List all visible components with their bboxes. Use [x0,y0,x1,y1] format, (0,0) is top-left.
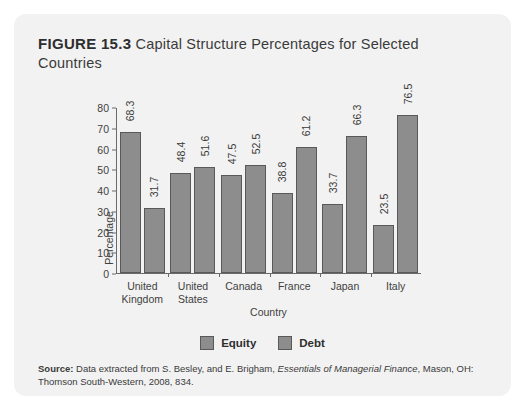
bar-debt[interactable]: 51.6 [194,108,215,273]
bar-debt[interactable]: 52.5 [245,108,266,273]
x-tick-mark [168,273,169,277]
x-tick-label: Italy [386,280,405,293]
bar-rect [322,204,343,274]
x-tick-label: UnitedKingdom [122,280,163,305]
country-group: 33.766.3Japan [322,108,367,273]
y-tick-mark [112,232,116,233]
y-tick-mark [112,170,116,171]
x-tick-label: France [278,280,311,293]
x-axis-line [116,273,421,274]
legend-swatch [200,336,214,350]
x-tick-label: Canada [225,280,262,293]
y-tick-mark [112,191,116,192]
legend-label: Debt [299,337,325,349]
bar-value-label: 61.2 [300,116,312,136]
bar-debt[interactable]: 76.5 [397,108,418,273]
bar-rect [245,165,266,273]
bar-rect [397,115,418,273]
bar-equity[interactable]: 47.5 [221,108,242,273]
y-tick-mark [112,211,116,212]
bars-area: 68.331.7UnitedKingdom48.451.6UnitedState… [117,108,421,273]
bar-rect [296,147,317,273]
bar-value-label: 66.3 [351,105,363,125]
bar-rect [346,136,367,273]
bar-equity[interactable]: 23.5 [373,108,394,273]
bar-rect [272,193,293,273]
y-tick-mark [112,253,116,254]
bar-value-label: 48.4 [175,142,187,162]
plot-area: 80706050403020100 68.331.7UnitedKingdom4… [116,108,421,274]
bar-value-label: 76.5 [402,84,414,104]
figure-card: FIGURE 15.3 Capital Structure Percentage… [14,14,511,396]
legend-entry-equity[interactable]: Equity [200,336,256,350]
y-tick-mark [112,149,116,150]
bar-value-label: 23.5 [378,193,390,213]
source-note: Source: Data extracted from S. Besley, a… [38,362,490,388]
country-group: 47.552.5Canada [221,108,266,273]
legend-swatch [278,336,292,350]
bar-value-label: 38.8 [276,162,288,182]
source-label: Source: [38,363,73,374]
bar-rect [144,208,165,273]
bar-value-label: 52.5 [250,134,262,154]
y-tick-mark [112,108,116,109]
x-tick-label: UnitedStates [178,280,208,305]
country-group: 48.451.6UnitedStates [170,108,215,273]
bar-rect [194,167,215,273]
y-tick-mark [112,274,116,275]
x-tick-mark [219,273,220,277]
x-tick-mark [320,273,321,277]
bar-value-label: 47.5 [226,144,238,164]
bar-rect [373,225,394,273]
country-group: 23.576.5Italy [373,108,418,273]
x-tick-mark [371,273,372,277]
bar-equity[interactable]: 48.4 [170,108,191,273]
bar-value-label: 68.3 [124,101,136,121]
bar-equity[interactable]: 38.8 [272,108,293,273]
bar-value-label: 33.7 [327,172,339,192]
bar-rect [221,175,242,273]
bar-equity[interactable]: 68.3 [120,108,141,273]
source-text-before: Data extracted from S. Besley, and E. Br… [73,363,277,374]
x-tick-label: Japan [331,280,360,293]
bar-value-label: 51.6 [199,135,211,155]
figure-title: FIGURE 15.3 Capital Structure Percentage… [38,34,478,73]
chart-legend: EquityDebt [14,336,511,350]
x-tick-mark [270,273,271,277]
bar-debt[interactable]: 31.7 [144,108,165,273]
figure-number: FIGURE 15.3 [38,35,131,52]
bar-debt[interactable]: 61.2 [296,108,317,273]
legend-label: Equity [221,337,256,349]
x-axis-label: Country [116,306,421,318]
country-group: 68.331.7UnitedKingdom [120,108,165,273]
country-group: 38.861.2France [272,108,317,273]
bar-rect [170,173,191,273]
y-tick-mark [112,128,116,129]
bar-equity[interactable]: 33.7 [322,108,343,273]
bar-value-label: 31.7 [148,176,160,196]
bar-debt[interactable]: 66.3 [346,108,367,273]
legend-entry-debt[interactable]: Debt [278,336,325,350]
bar-rect [120,132,141,273]
chart-region: Percentage 80706050403020100 68.331.7Uni… [14,94,511,334]
source-book-title: Essentials of Managerial Finance [278,363,418,374]
